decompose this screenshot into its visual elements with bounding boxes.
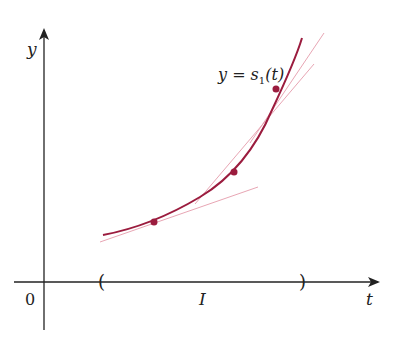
tangent-line-3: [250, 33, 324, 143]
interval-right-bracket: ): [299, 271, 306, 292]
interval-left-bracket: (: [98, 271, 105, 292]
curve-label-lhs: y = s: [217, 65, 259, 84]
curve-label-rhs: (t): [265, 65, 284, 84]
y-axis-label: y: [26, 39, 37, 59]
tangent-line-2: [195, 64, 314, 204]
t-axis-label: t: [366, 289, 373, 309]
diagram-canvas: y t 0 y = s1(t) ( ) I: [0, 0, 397, 354]
curve-label: y = s1(t): [217, 65, 284, 86]
curve-point-3: [273, 86, 280, 93]
curve-point-1: [151, 219, 158, 226]
tangent-line-1: [100, 187, 258, 242]
curve-point-2: [231, 169, 238, 176]
origin-label: 0: [25, 290, 35, 309]
interval-label: I: [198, 289, 206, 309]
